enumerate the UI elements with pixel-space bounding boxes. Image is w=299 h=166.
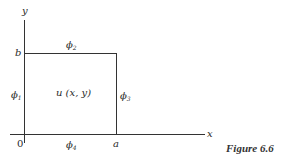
- phi-right-label: ϕ3: [120, 91, 131, 102]
- phi-left-label: ϕ1: [11, 90, 22, 101]
- tick-b-label: b: [15, 48, 21, 58]
- rect-right-edge: [116, 53, 117, 135]
- region-function-label: u (x, y): [56, 88, 91, 98]
- x-axis: [10, 134, 205, 135]
- y-axis-label: y: [22, 6, 28, 16]
- y-axis: [24, 20, 25, 143]
- origin-label: 0: [17, 139, 23, 149]
- figure-caption: Figure 6.6: [226, 142, 274, 154]
- tick-a-label: a: [113, 139, 119, 149]
- x-axis-label: x: [207, 129, 213, 139]
- phi-bottom-label: ϕ4: [66, 140, 77, 151]
- rect-top-edge: [24, 53, 117, 54]
- phi-top-label: ϕ2: [66, 40, 77, 51]
